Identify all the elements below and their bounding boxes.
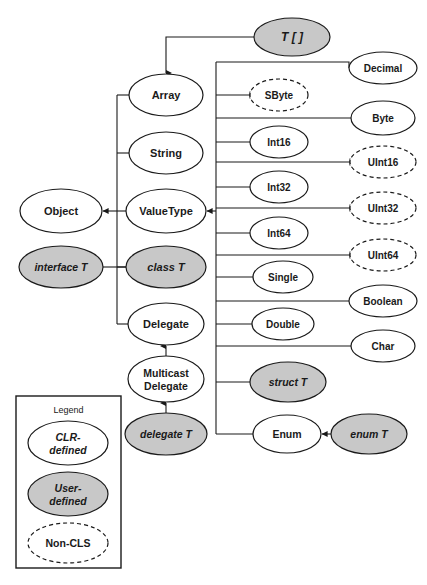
node-interface-t[interactable]: interface T bbox=[19, 246, 103, 288]
node-label-object: Object bbox=[44, 205, 79, 217]
node-char[interactable]: Char bbox=[351, 330, 415, 362]
node-label-double: Double bbox=[266, 319, 300, 330]
node-single[interactable]: Single bbox=[253, 261, 313, 293]
node-label-class-t: class T bbox=[147, 261, 186, 273]
node-label-multicast: Delegate bbox=[144, 380, 188, 392]
node-label-legend-user: User- bbox=[55, 482, 82, 494]
node-label-byte: Byte bbox=[372, 113, 394, 124]
node-label-enum: Enum bbox=[272, 428, 301, 440]
node-enum[interactable]: Enum bbox=[253, 415, 321, 453]
edge-tarray-array bbox=[166, 37, 254, 73]
node-layer: T [ ]ArrayStringObjectValueTypeinterface… bbox=[19, 18, 417, 455]
node-label-int16: Int16 bbox=[267, 137, 291, 148]
node-object[interactable]: Object bbox=[20, 189, 102, 233]
node-sbyte[interactable]: SByte bbox=[250, 79, 308, 111]
node-int32[interactable]: Int32 bbox=[250, 171, 308, 203]
node-label-struct-t: struct T bbox=[269, 376, 309, 388]
node-byte[interactable]: Byte bbox=[351, 101, 415, 135]
diagram-canvas: T [ ]ArrayStringObjectValueTypeinterface… bbox=[0, 0, 427, 585]
node-boolean[interactable]: Boolean bbox=[349, 285, 417, 317]
node-label-int32: Int32 bbox=[267, 182, 291, 193]
node-array[interactable]: Array bbox=[129, 74, 203, 116]
node-label-legend-user: defined bbox=[49, 495, 87, 507]
node-label-string: String bbox=[150, 147, 182, 159]
node-t-array[interactable]: T [ ] bbox=[254, 18, 330, 56]
node-label-single: Single bbox=[268, 272, 298, 283]
node-label-legend-clr: defined bbox=[49, 444, 87, 456]
node-label-sbyte: SByte bbox=[265, 90, 294, 101]
node-label-array: Array bbox=[152, 89, 182, 101]
node-label-decimal: Decimal bbox=[364, 63, 403, 74]
node-label-delegate-t: delegate T bbox=[140, 428, 194, 440]
node-label-legend-noncls: Non-CLS bbox=[46, 537, 91, 549]
node-label-uint64: UInt64 bbox=[368, 250, 399, 261]
node-label-char: Char bbox=[372, 341, 395, 352]
node-label-delegate: Delegate bbox=[143, 318, 189, 330]
legend-group: LegendCLR-definedUser-definedNon-CLS bbox=[16, 396, 121, 568]
node-label-multicast: Multicast bbox=[143, 367, 189, 379]
node-label-uint32: UInt32 bbox=[368, 203, 399, 214]
node-legend-clr[interactable]: CLR-defined bbox=[28, 421, 108, 465]
node-label-valuetype: ValueType bbox=[139, 205, 193, 217]
node-legend-noncls[interactable]: Non-CLS bbox=[28, 523, 108, 563]
node-label-boolean: Boolean bbox=[363, 296, 402, 307]
node-label-int64: Int64 bbox=[267, 228, 291, 239]
node-label-legend-clr: CLR- bbox=[55, 431, 81, 443]
node-uint32[interactable]: UInt32 bbox=[350, 192, 416, 224]
node-uint16[interactable]: UInt16 bbox=[350, 146, 416, 178]
node-string[interactable]: String bbox=[129, 132, 203, 174]
legend-title: Legend bbox=[53, 405, 83, 415]
node-valuetype[interactable]: ValueType bbox=[126, 189, 206, 233]
node-enum-t[interactable]: enum T bbox=[331, 414, 407, 454]
node-decimal[interactable]: Decimal bbox=[349, 52, 417, 84]
node-class-t[interactable]: class T bbox=[126, 246, 206, 288]
node-legend-user[interactable]: User-defined bbox=[28, 472, 108, 516]
node-label-uint16: UInt16 bbox=[368, 157, 399, 168]
node-delegate-t[interactable]: delegate T bbox=[125, 413, 207, 455]
node-delegate[interactable]: Delegate bbox=[128, 303, 204, 345]
edge-decimal-spine bbox=[216, 62, 349, 68]
node-struct-t[interactable]: struct T bbox=[250, 362, 326, 402]
node-label-enum-t: enum T bbox=[350, 428, 389, 440]
node-label-t-array: T [ ] bbox=[281, 30, 304, 44]
node-uint64[interactable]: UInt64 bbox=[350, 239, 416, 271]
node-label-interface-t: interface T bbox=[34, 261, 89, 273]
node-multicast[interactable]: MulticastDelegate bbox=[128, 356, 204, 402]
node-int16[interactable]: Int16 bbox=[250, 126, 308, 158]
node-double[interactable]: Double bbox=[252, 308, 314, 340]
node-int64[interactable]: Int64 bbox=[250, 217, 308, 249]
type-hierarchy-diagram: T [ ]ArrayStringObjectValueTypeinterface… bbox=[0, 0, 427, 585]
